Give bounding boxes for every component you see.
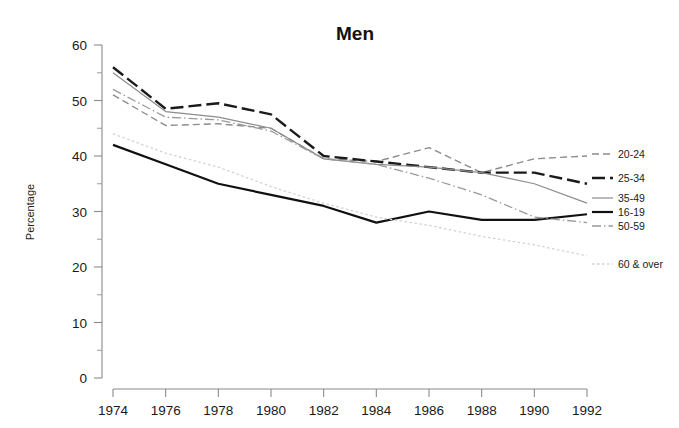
x-tick-label: 1978: [203, 403, 233, 418]
x-tick-label: 1984: [361, 403, 392, 418]
series-line-60-over: [113, 134, 587, 256]
y-axis-label: Percentage: [24, 184, 36, 240]
chart-legend: 20-2425-3435-4916-1950-5960 & over: [592, 148, 663, 270]
chart-title: Men: [336, 23, 374, 44]
line-chart: Men Percentage 0102030405060 19741976197…: [0, 0, 679, 428]
series-lines: [113, 67, 587, 256]
legend-label[interactable]: 50-59: [618, 220, 645, 232]
series-line-16-19: [113, 145, 587, 223]
x-tick-label: 1988: [467, 403, 497, 418]
x-tick-label: 1990: [519, 403, 549, 418]
y-tick-label: 10: [72, 316, 87, 331]
x-tick-label: 1992: [572, 403, 602, 418]
x-tick-label: 1986: [414, 403, 444, 418]
x-tick-label: 1976: [151, 403, 181, 418]
legend-label[interactable]: 25-34: [618, 172, 645, 184]
legend-label[interactable]: 35-49: [618, 192, 645, 204]
x-tick-label: 1974: [98, 403, 129, 418]
y-tick-label: 30: [72, 205, 87, 220]
x-tick-label: 1982: [309, 403, 339, 418]
series-line-35-49: [113, 73, 587, 203]
y-axis: 0102030405060: [72, 38, 102, 386]
y-tick-label: 60: [72, 38, 87, 53]
series-line-50-59: [113, 89, 587, 222]
legend-label[interactable]: 20-24: [618, 148, 645, 160]
chart-container: Men Percentage 0102030405060 19741976197…: [0, 0, 679, 428]
legend-label[interactable]: 16-19: [618, 206, 645, 218]
y-tick-label: 0: [79, 371, 87, 386]
y-tick-label: 40: [72, 149, 87, 164]
y-tick-label: 20: [72, 260, 87, 275]
x-tick-label: 1980: [256, 403, 286, 418]
legend-label[interactable]: 60 & over: [618, 258, 663, 270]
y-tick-label: 50: [72, 94, 87, 109]
x-axis: 1974197619781980198219841986198819901992: [98, 389, 602, 418]
